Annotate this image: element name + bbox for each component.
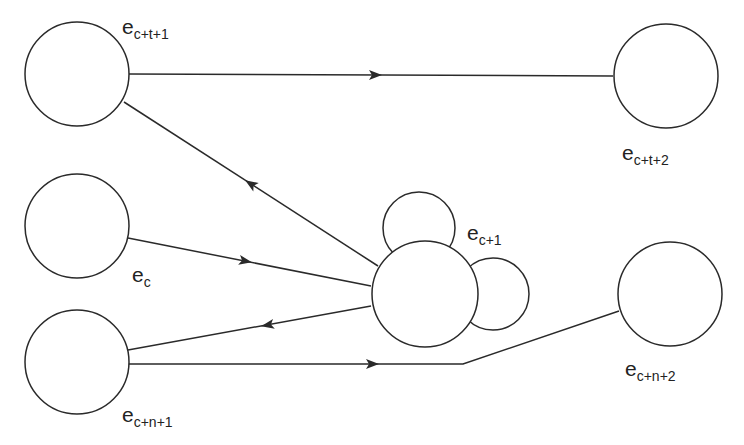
edges — [124, 70, 619, 369]
node-e_c+t+1 — [25, 22, 129, 126]
node-e_c — [25, 174, 129, 278]
node-e_c+n+1 — [25, 310, 129, 414]
nodes — [25, 22, 722, 414]
node-e_c+t+2 — [614, 24, 718, 128]
label-e_c+t+1: ec+t+1 — [122, 15, 169, 42]
label-e_c+n+1: ec+n+1 — [122, 403, 173, 430]
node-e_c+n+2 — [618, 242, 722, 346]
arrowhead-icon — [238, 255, 253, 267]
label-e_c+1: ec+1 — [467, 221, 502, 248]
label-e_c+n+2: ec+n+2 — [625, 357, 676, 384]
edge-e_c+1-to-e_c+t+1 — [124, 102, 378, 266]
edge-e_c+1-to-e_c+n+1 — [128, 306, 371, 350]
state-graph: ec+t+1ec+t+2ecec+n+1ec+n+2ec+1 — [0, 0, 744, 445]
arrowhead-icon — [242, 176, 258, 191]
label-e_c+t+2: ec+t+2 — [622, 141, 669, 168]
edge-e_c+n+1-to-e_c+n+2 — [128, 311, 619, 369]
node-e_c+1 — [372, 241, 478, 347]
edge-e_c+t+1-to-e_c+t+2 — [129, 70, 613, 80]
label-e_c: ec — [132, 263, 151, 290]
edge-e_c-to-e_c+1 — [128, 238, 371, 286]
